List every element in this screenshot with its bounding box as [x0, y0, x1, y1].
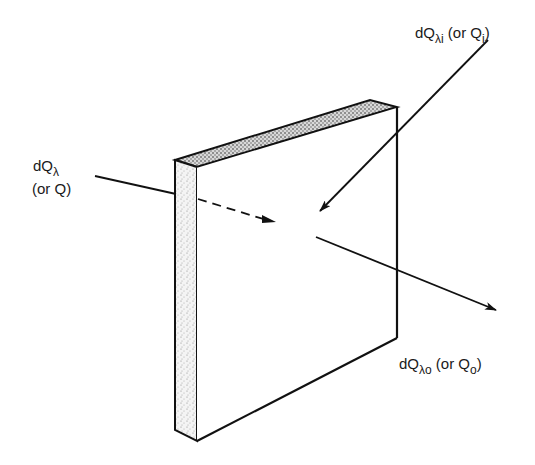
slab-side-face	[175, 160, 197, 441]
label-incident-left: dQλ	[33, 157, 59, 174]
label-outgoing: dQλo (or Qo)	[399, 355, 482, 372]
slab-diagram	[0, 0, 535, 465]
label-incident-left-alt: (or Q)	[32, 180, 71, 197]
label-incident-top: dQλi (or Qi)	[415, 24, 490, 41]
